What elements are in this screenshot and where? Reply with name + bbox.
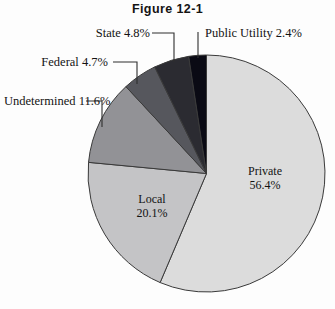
pie-chart-svg [0,0,335,309]
callout-label-state: State 4.8% [84,26,150,40]
pie-label-local: Local 20.1% [116,192,188,220]
pie-label-private-value: 56.4% [228,178,302,192]
leader-line-state [152,33,174,62]
callout-label-undetermined-value: 11.6% [79,94,111,108]
callout-label-public-utility: Public Utility 2.4% [205,26,302,40]
callout-label-federal: Federal 4.7% [36,55,108,69]
figure-page: Figure 12-1 State 4.8% Public Utility 2.… [0,0,335,309]
callout-label-undetermined: Undetermined 11.6% [4,94,82,108]
pie-label-local-value: 20.1% [116,206,188,220]
pie-label-private-name: Private [228,164,302,178]
callout-label-undetermined-name: Undetermined [4,94,76,108]
pie-label-local-name: Local [116,192,188,206]
pie-label-private: Private 56.4% [228,164,302,192]
pie-chart: State 4.8% Public Utility 2.4% Federal 4… [0,0,335,309]
